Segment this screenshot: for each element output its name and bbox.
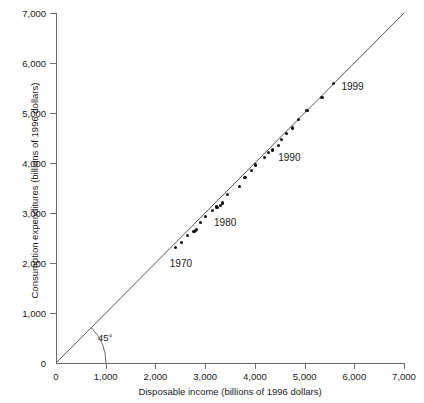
x-tick-6000 [354, 363, 355, 369]
y-tick-6000 [50, 63, 56, 64]
x-tick-3000 [205, 363, 206, 369]
y-axis-line [56, 13, 57, 363]
angle-label-45: 45° [98, 332, 112, 343]
annotation-1970: 1970 [170, 259, 192, 269]
x-tick-label-6000: 6,000 [332, 372, 376, 382]
data-point-1977 [204, 215, 207, 218]
x-tick-7000 [404, 363, 405, 369]
annotation-1999: 1999 [341, 82, 363, 92]
y-tick-5000 [50, 113, 56, 114]
data-point-1985 [243, 176, 246, 179]
data-point-1983 [226, 193, 229, 196]
x-tick-5000 [305, 363, 306, 369]
data-point-1989 [267, 151, 270, 154]
annotation-1980: 1980 [214, 218, 236, 228]
x-tick-label-2000: 2,000 [133, 372, 177, 382]
x-tick-label-0: 0 [34, 372, 78, 382]
y-tick-2000 [50, 263, 56, 264]
data-point-1976 [199, 221, 202, 224]
data-point-1970 [174, 246, 177, 249]
x-tick-label-3000: 3,000 [183, 372, 227, 382]
x-tick-label-5000: 5,000 [283, 372, 327, 382]
data-point-1986 [250, 169, 253, 172]
data-point-1997 [305, 109, 308, 112]
data-point-1972 [186, 234, 189, 237]
data-point-1992 [277, 144, 280, 147]
x-axis-line [56, 363, 404, 364]
x-tick-4000 [255, 363, 256, 369]
y-tick-4000 [50, 163, 56, 164]
annotation-1990: 1990 [278, 153, 300, 163]
data-point-1987 [254, 163, 257, 166]
x-tick-label-7000: 7,000 [382, 372, 424, 382]
y-tick-3000 [50, 213, 56, 214]
data-point-1996 [297, 118, 300, 121]
data-point-1980 [215, 206, 218, 209]
data-point-1998 [320, 96, 323, 99]
data-point-1993 [280, 138, 283, 141]
y-tick-7000 [50, 13, 56, 14]
y-axis-title: Consumption expenditures (billions of 19… [29, 51, 40, 331]
x-tick-2000 [155, 363, 156, 369]
y-tick-label-7000: 7,000 [2, 9, 46, 19]
y-tick-1000 [50, 313, 56, 314]
x-tick-label-4000: 4,000 [233, 372, 277, 382]
data-point-1988 [263, 156, 266, 159]
data-point-1971 [180, 241, 183, 244]
x-tick-label-1000: 1,000 [84, 372, 128, 382]
data-point-1978 [211, 209, 214, 212]
data-point-1975 [195, 228, 198, 231]
reference-line-45deg [0, 0, 424, 403]
y-tick-label-0: 0 [2, 359, 46, 369]
x-axis-title: Disposable income (billions of 1996 doll… [56, 386, 404, 397]
data-point-1994 [285, 132, 288, 135]
data-point-1999 [332, 82, 335, 85]
data-point-1982 [221, 201, 224, 204]
data-point-1984 [238, 185, 241, 188]
data-point-1991 [271, 149, 274, 152]
data-point-1995 [291, 126, 294, 129]
x-tick-1000 [106, 363, 107, 369]
scatter-chart: 7,000 6,000 5,000 4,000 3,000 2,000 1,00… [0, 0, 424, 403]
